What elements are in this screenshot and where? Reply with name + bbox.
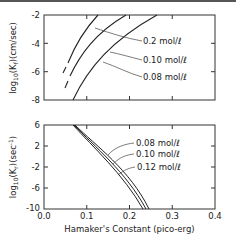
top-ytick-label: -8 xyxy=(32,95,40,105)
bottom-xtick-label: 0.4 xyxy=(208,211,222,221)
bottom-xtick-label: 0.3 xyxy=(165,211,179,221)
bottom-ytick-label: -2 xyxy=(32,162,40,172)
bottom-xtick-label: 0.2 xyxy=(123,211,137,221)
top-y-ticks xyxy=(44,43,215,71)
x-axis-title: Hamaker's Constant (pico-erg) xyxy=(64,224,194,234)
bottom-plot-frame xyxy=(44,125,215,209)
bottom-label-0.10: 0.10 mol/ℓ xyxy=(136,149,180,159)
top-ytick-label: -2 xyxy=(32,10,40,20)
curve-top-0.2 xyxy=(68,15,98,63)
top-label-0.08: 0.08 mol/ℓ xyxy=(143,72,187,82)
bottom-ytick-label: 2 xyxy=(35,141,40,151)
leader-top-0.08 xyxy=(103,62,142,77)
top-label-0.2: 0.2 mol/ℓ xyxy=(143,36,181,46)
top-panel: -2 -4 -6 -8 log10(Kf)(cm/sec) 0.2 mol/ℓ … xyxy=(8,10,215,105)
top-ytick-label: -4 xyxy=(32,39,40,49)
top-ytick-label: -6 xyxy=(32,67,40,77)
bottom-y-ticks xyxy=(44,146,215,188)
curve-bottom-0.12 xyxy=(73,125,143,209)
bottom-xtick-label: 0.1 xyxy=(80,211,94,221)
top-label-0.10: 0.10 mol/ℓ xyxy=(143,55,187,65)
top-plot-frame xyxy=(44,15,215,100)
bottom-xtick-label: 0.0 xyxy=(37,211,51,221)
curve-top-0.10-dashed xyxy=(65,81,68,88)
leader-bottom-0.08 xyxy=(108,143,134,155)
bottom-label-0.12: 0.12 mol/ℓ xyxy=(137,162,181,172)
bottom-panel: 6 2 -2 -6 -10 0.0 0.1 0.2 0.3 0.4 Hamake… xyxy=(7,120,222,234)
curve-top-0.10 xyxy=(70,15,126,76)
leader-top-0.10 xyxy=(110,52,142,60)
bottom-y-axis-title: log10(Kr)(sec-1) xyxy=(7,136,19,198)
chart-figure: -2 -4 -6 -8 log10(Kf)(cm/sec) 0.2 mol/ℓ … xyxy=(0,0,236,244)
bottom-ytick-label: 6 xyxy=(35,120,40,130)
top-y-axis-title: log10(Kf)(cm/sec) xyxy=(8,22,19,94)
leader-bottom-0.10 xyxy=(113,154,134,164)
leader-top-0.2 xyxy=(95,28,142,41)
curve-top-0.2-dashed xyxy=(63,67,66,73)
bottom-label-0.08: 0.08 mol/ℓ xyxy=(136,138,180,148)
bottom-ytick-label: -6 xyxy=(32,183,40,193)
